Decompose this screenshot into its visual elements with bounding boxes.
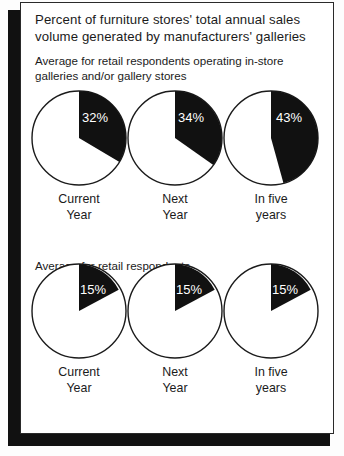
pie-cell-group2-in-five-years: 15% In five years xyxy=(221,261,321,411)
pie-caption: In five years xyxy=(221,192,321,223)
pie-caption: Current Year xyxy=(29,365,129,396)
group-1-heading: Average for retail respondents operating… xyxy=(35,53,325,83)
pie-caption-line-1: In five xyxy=(221,192,321,208)
pie-chart-figure: Percent of furniture stores' total annua… xyxy=(0,0,344,456)
pie-chart-group1-next-year: 34% xyxy=(125,88,225,188)
pie-cell-group1-current-year: 32% Current Year xyxy=(29,88,129,238)
pie-caption-line-1: Next xyxy=(125,365,225,381)
pie-cell-group1-in-five-years: 43% In five years xyxy=(221,88,321,238)
pie-caption: In five years xyxy=(221,365,321,396)
pie-caption-line-1: Current xyxy=(29,365,129,381)
pie-chart-group1-current-year: 32% xyxy=(29,88,129,188)
pie-caption: Next Year xyxy=(125,365,225,396)
pie-cell-group2-current-year: 15% Current Year xyxy=(29,261,129,411)
pie-caption-line-2: Year xyxy=(125,381,225,397)
chart-panel: Percent of furniture stores' total annua… xyxy=(20,2,334,434)
pie-caption-line-2: years xyxy=(221,208,321,224)
pie-chart-group2-current-year: 15% xyxy=(29,261,129,361)
pie-value-label: 15% xyxy=(176,282,202,297)
pie-chart-group2-in-five-years: 15% xyxy=(221,261,321,361)
pie-chart-group2-next-year: 15% xyxy=(125,261,225,361)
pie-cell-group2-next-year: 15% Next Year xyxy=(125,261,225,411)
pie-caption-line-1: Next xyxy=(125,192,225,208)
panel-shadow-bottom xyxy=(8,433,330,446)
pie-cell-group1-next-year: 34% Next Year xyxy=(125,88,225,238)
pie-caption-line-2: Year xyxy=(29,208,129,224)
pie-caption-line-1: Current xyxy=(29,192,129,208)
pie-caption-line-1: In five xyxy=(221,365,321,381)
pie-caption-line-2: years xyxy=(221,381,321,397)
pie-value-label: 32% xyxy=(82,110,108,125)
pie-value-label: 15% xyxy=(80,282,106,297)
pie-caption-line-2: Year xyxy=(29,381,129,397)
pie-caption: Next Year xyxy=(125,192,225,223)
pie-caption-line-2: Year xyxy=(125,208,225,224)
pie-chart-group1-in-five-years: 43% xyxy=(221,88,321,188)
page-title: Percent of furniture stores' total annua… xyxy=(35,11,325,45)
pie-value-label: 34% xyxy=(178,110,204,125)
pie-value-label: 43% xyxy=(276,110,302,125)
pie-caption: Current Year xyxy=(29,192,129,223)
pie-value-label: 15% xyxy=(272,282,298,297)
